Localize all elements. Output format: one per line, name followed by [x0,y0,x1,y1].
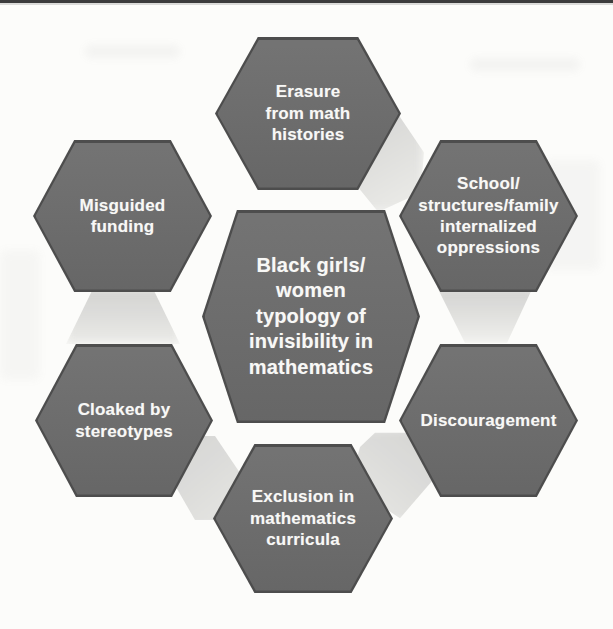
hexagon-center-typology: Black girls/ women typology of invisibil… [202,210,420,423]
hexagon-misguided-funding: Misguided funding [33,140,212,292]
hexagon-fill: Black girls/ women typology of invisibil… [205,213,418,421]
hexagon-label: School/ structures/family internalized o… [402,173,576,259]
hexagon-fill: School/ structures/family internalized o… [402,143,576,290]
hexagon-fill: Misguided funding [36,143,210,290]
hexagon-label: Discouragement [402,410,576,431]
hexagon-fill: Cloaked by stereotypes [38,347,211,495]
scan-artifact [470,58,580,71]
scan-artifact [0,250,40,380]
hexagon-label: Black girls/ women typology of invisibil… [205,253,418,381]
hexagon-fill: Exclusion in mathematics curricula [216,447,391,591]
hexagon-label: Misguided funding [36,195,210,238]
page-top-rule [0,0,613,3]
hexagon-fill: Discouragement [402,347,576,495]
shadow-below-misguided-funding [66,288,180,344]
hexagon-label: Exclusion in mathematics curricula [216,486,391,550]
scan-artifact [85,45,180,58]
scanned-page: Erasure from math histories Misguided fu… [0,0,613,629]
hexagon-fill: Erasure from math histories [218,40,399,188]
shadow-below-school [435,287,535,343]
hexagon-label: Erasure from math histories [218,81,399,145]
hexagon-label: Cloaked by stereotypes [38,399,211,442]
